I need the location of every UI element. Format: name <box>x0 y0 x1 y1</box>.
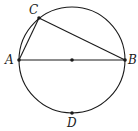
point-d <box>70 111 74 115</box>
point-b <box>123 58 127 62</box>
circle-diagram: C A B D <box>0 0 138 131</box>
chord-ac <box>19 18 39 60</box>
chord-cb <box>39 18 125 60</box>
point-a <box>17 58 21 62</box>
label-d: D <box>66 116 77 130</box>
center-point <box>70 58 74 62</box>
label-c: C <box>29 3 38 17</box>
label-a: A <box>4 53 14 67</box>
label-b: B <box>127 53 137 67</box>
